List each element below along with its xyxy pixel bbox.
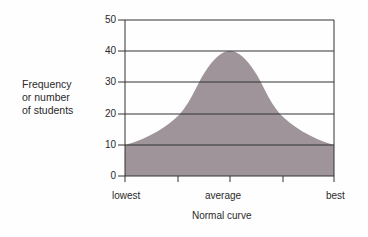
x-tick-average: average	[205, 190, 241, 201]
x-tick-best: best	[326, 190, 345, 201]
chart-plot	[0, 0, 368, 237]
x-tick-lowest: lowest	[112, 190, 140, 201]
x-axis-label: Normal curve	[192, 210, 251, 221]
